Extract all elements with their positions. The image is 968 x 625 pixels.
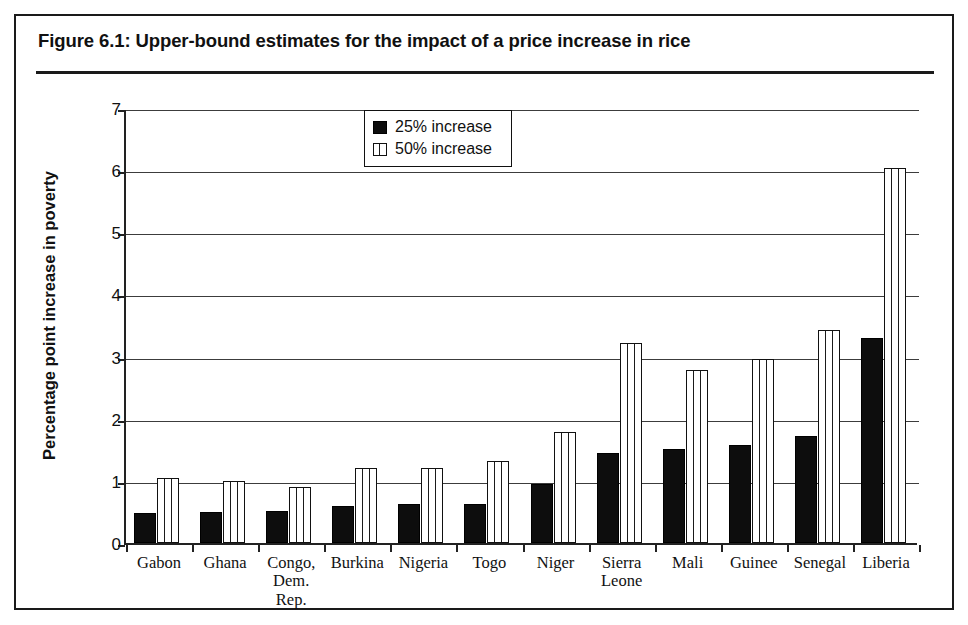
- x-axis-tick: [258, 545, 260, 552]
- x-axis-category-label: Liberia: [853, 554, 919, 572]
- x-axis-tick: [192, 545, 194, 552]
- x-axis-label-line: Togo: [456, 554, 522, 572]
- bar-50-increase[interactable]: [487, 461, 509, 543]
- y-axis-label: 3: [81, 350, 121, 367]
- bar-50-increase[interactable]: [421, 468, 443, 543]
- bar-50-increase[interactable]: [223, 481, 245, 543]
- bar-50-increase[interactable]: [686, 370, 708, 543]
- bar-25-increase[interactable]: [266, 511, 288, 543]
- chart-legend: 25% increase 50% increase: [364, 110, 512, 167]
- y-axis-label: 1: [81, 474, 121, 491]
- bar-50-increase[interactable]: [620, 343, 642, 543]
- x-axis-category-label: Gabon: [126, 554, 192, 572]
- legend-swatch-25-icon: [373, 121, 387, 134]
- legend-label-50: 50% increase: [395, 140, 492, 158]
- x-axis-label-line: Niger: [523, 554, 589, 572]
- bar-25-increase[interactable]: [200, 512, 222, 543]
- legend-swatch-50-icon: [373, 143, 387, 156]
- y-axis-label: 6: [81, 163, 121, 180]
- x-axis-label-line: Nigeria: [390, 554, 456, 572]
- x-axis-tick: [523, 545, 525, 552]
- bar-50-increase[interactable]: [289, 487, 311, 543]
- x-axis-tick: [787, 545, 789, 552]
- bar-group: [456, 108, 522, 543]
- x-axis-category-label: Guinee: [721, 554, 787, 572]
- x-axis-label-line: Burkina: [324, 554, 390, 572]
- bar-50-increase[interactable]: [355, 468, 377, 543]
- bar-group: [787, 108, 853, 543]
- bar-group: [523, 108, 589, 543]
- legend-label-25: 25% increase: [395, 118, 492, 136]
- x-axis-category-label: Mali: [655, 554, 721, 572]
- y-axis-title: Percentage point increase in poverty: [40, 151, 59, 481]
- chart-container: Percentage point increase in poverty 012…: [16, 16, 956, 612]
- x-axis-label-line: Mali: [655, 554, 721, 572]
- bar-25-increase[interactable]: [663, 449, 685, 543]
- bar-group: [324, 108, 390, 543]
- x-axis-tick: [324, 545, 326, 552]
- x-axis-label-line: Congo,: [258, 554, 324, 572]
- x-axis-category-label: Senegal: [787, 554, 853, 572]
- y-axis-label: 4: [81, 287, 121, 304]
- x-axis-label-line: Guinee: [721, 554, 787, 572]
- plot-area: 01234567GabonGhanaCongo,Dem. Rep.Burkina…: [124, 110, 917, 545]
- x-axis-label-line: Leone: [589, 572, 655, 590]
- x-axis-tick: [390, 545, 392, 552]
- bar-50-increase[interactable]: [818, 330, 840, 543]
- x-axis-category-label: Togo: [456, 554, 522, 572]
- bar-25-increase[interactable]: [332, 506, 354, 543]
- x-axis-category-label: Nigeria: [390, 554, 456, 572]
- x-axis-category-label: SierraLeone: [589, 554, 655, 591]
- bar-50-increase[interactable]: [752, 359, 774, 543]
- x-axis-label-line: Senegal: [787, 554, 853, 572]
- legend-item-50: 50% increase: [373, 138, 503, 160]
- bar-group: [655, 108, 721, 543]
- bar-50-increase[interactable]: [884, 168, 906, 543]
- x-axis-label-line: Sierra: [589, 554, 655, 572]
- bar-25-increase[interactable]: [861, 338, 883, 543]
- x-axis-tick: [589, 545, 591, 552]
- bar-group: [853, 108, 919, 543]
- x-axis-label-line: Gabon: [126, 554, 192, 572]
- bar-25-increase[interactable]: [398, 504, 420, 543]
- x-axis-tick: [853, 545, 855, 552]
- y-axis-label: 2: [81, 412, 121, 429]
- legend-item-25: 25% increase: [373, 116, 503, 138]
- y-axis-label: 7: [81, 101, 121, 118]
- bar-group: [258, 108, 324, 543]
- x-axis-tick: [126, 545, 128, 552]
- x-axis-category-label: Niger: [523, 554, 589, 572]
- bar-group: [589, 108, 655, 543]
- bar-group: [390, 108, 456, 543]
- bar-25-increase[interactable]: [134, 513, 156, 543]
- x-axis-label-line: Dem. Rep.: [258, 572, 324, 609]
- x-axis-category-label: Ghana: [192, 554, 258, 572]
- x-axis-label-line: Ghana: [192, 554, 258, 572]
- bar-25-increase[interactable]: [597, 453, 619, 543]
- bar-group: [721, 108, 787, 543]
- bar-25-increase[interactable]: [464, 504, 486, 543]
- x-axis-tick: [456, 545, 458, 552]
- bar-50-increase[interactable]: [157, 478, 179, 543]
- x-axis-label-line: Liberia: [853, 554, 919, 572]
- x-axis-tick: [655, 545, 657, 552]
- bar-25-increase[interactable]: [729, 445, 751, 543]
- bar-25-increase[interactable]: [531, 484, 553, 543]
- x-axis-category-label: Congo,Dem. Rep.: [258, 554, 324, 609]
- y-axis-label: 0: [81, 536, 121, 553]
- bar-50-increase[interactable]: [554, 432, 576, 543]
- figure-frame: Figure 6.1: Upper-bound estimates for th…: [14, 14, 954, 610]
- y-axis-label: 5: [81, 225, 121, 242]
- x-axis-tick: [721, 545, 723, 552]
- x-axis-category-label: Burkina: [324, 554, 390, 572]
- bar-group: [192, 108, 258, 543]
- bar-group: [126, 108, 192, 543]
- bar-25-increase[interactable]: [795, 436, 817, 544]
- x-axis-tick: [919, 545, 921, 552]
